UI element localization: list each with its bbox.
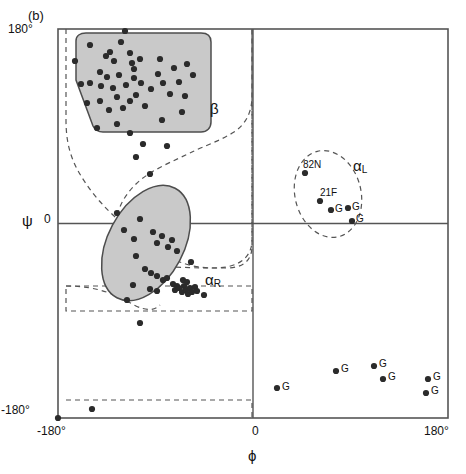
- data-point: [114, 210, 120, 216]
- y-tick-label-0: 0: [44, 212, 51, 226]
- alpha-R-region-label: αR: [205, 271, 221, 289]
- point-label-G: G: [341, 363, 349, 374]
- y-tick-label-minus180: -180°: [1, 403, 30, 417]
- data-point: [120, 105, 126, 111]
- point-label-G: G: [388, 371, 396, 382]
- point-label-G: G: [431, 385, 439, 396]
- data-point: [118, 39, 124, 45]
- beta-region-label: β: [210, 100, 219, 117]
- data-point: [72, 58, 78, 64]
- x-tick-label-minus180: -180°: [37, 424, 66, 438]
- data-point: [130, 282, 136, 288]
- data-point: [133, 253, 139, 259]
- x-tick-label-0: 0: [252, 424, 259, 438]
- data-point: [142, 103, 148, 109]
- data-point: [164, 143, 170, 149]
- data-point: [87, 42, 93, 48]
- data-point: [190, 72, 196, 78]
- point-label-G: G: [433, 371, 441, 382]
- data-point: [302, 170, 308, 176]
- point-label-G: G: [282, 381, 290, 392]
- data-point: [150, 229, 156, 235]
- data-point: [317, 198, 323, 204]
- point-label-21F: 21F: [320, 187, 337, 198]
- data-point: [188, 259, 194, 265]
- data-point: [349, 218, 355, 224]
- data-point: [55, 415, 61, 421]
- data-point: [159, 233, 165, 239]
- data-point: [425, 376, 431, 382]
- data-point: [133, 92, 139, 98]
- data-point: [371, 363, 377, 369]
- data-point: [184, 279, 190, 285]
- data-point: [122, 28, 128, 34]
- data-point: [114, 94, 120, 100]
- alpha-R-subscript: R: [214, 278, 221, 289]
- x-axis-title: ϕ: [248, 447, 256, 464]
- data-point: [127, 130, 133, 136]
- data-point: [164, 275, 170, 281]
- data-point: [107, 49, 113, 55]
- data-point: [154, 288, 160, 294]
- ramachandran-figure: { "figure": { "panel_label": "(b)", "cap…: [0, 0, 466, 474]
- alpha-L-region-label: αL: [353, 157, 367, 175]
- data-point: [182, 93, 188, 99]
- data-point: [89, 406, 95, 412]
- data-point: [137, 56, 143, 62]
- data-point: [274, 385, 280, 391]
- data-point: [78, 81, 84, 87]
- data-point: [159, 117, 165, 123]
- point-label-G: G: [352, 201, 360, 212]
- data-point: [131, 66, 137, 72]
- data-point: [129, 60, 135, 66]
- data-point: [148, 86, 154, 92]
- data-point: [87, 80, 93, 86]
- data-point: [97, 69, 103, 75]
- data-point: [328, 207, 334, 213]
- data-point: [137, 216, 143, 222]
- point-label-G: G: [335, 203, 343, 214]
- y-tick-label-180: 180°: [8, 22, 33, 36]
- x-tick-label-180: 180°: [424, 424, 449, 438]
- data-point: [194, 288, 200, 294]
- data-point: [123, 82, 129, 88]
- panel-label: (b): [28, 8, 44, 23]
- point-label-G: G: [356, 213, 364, 224]
- data-point: [104, 74, 110, 80]
- data-point: [148, 270, 154, 276]
- data-point: [127, 98, 133, 104]
- data-point: [84, 100, 90, 106]
- data-point: [106, 107, 112, 113]
- alpha-R-glyph: α: [205, 271, 214, 288]
- data-point: [116, 72, 122, 78]
- data-point: [138, 80, 144, 86]
- data-point: [147, 171, 153, 177]
- data-point: [169, 237, 175, 243]
- alpha-L-subscript: L: [362, 164, 368, 175]
- data-point: [155, 71, 161, 77]
- data-point: [165, 244, 171, 250]
- data-point: [380, 376, 386, 382]
- data-point: [140, 141, 146, 147]
- data-point: [131, 75, 137, 81]
- alpha-L-glyph: α: [353, 157, 362, 174]
- data-point: [133, 154, 139, 160]
- data-point: [184, 61, 190, 67]
- data-point: [94, 125, 100, 131]
- data-point: [174, 248, 180, 254]
- data-point: [124, 297, 130, 303]
- data-point: [131, 236, 137, 242]
- data-point: [201, 292, 207, 298]
- data-point: [111, 58, 117, 64]
- data-point: [423, 390, 429, 396]
- data-point: [97, 98, 103, 104]
- data-point: [157, 56, 163, 62]
- data-point: [114, 121, 120, 127]
- ramachandran-plot-svg: [0, 0, 466, 474]
- point-label-82N: 82N: [303, 159, 321, 170]
- data-point: [121, 227, 127, 233]
- data-point: [110, 85, 116, 91]
- data-point: [176, 79, 182, 85]
- data-point: [142, 266, 148, 272]
- data-point: [160, 80, 166, 86]
